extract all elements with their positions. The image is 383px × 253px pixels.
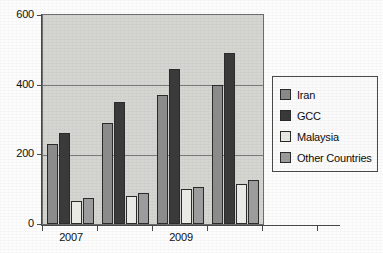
bar-gcc-2 [169, 69, 180, 224]
legend-label-malaysia: Malaysia [297, 131, 339, 143]
x-tick-mark [97, 226, 98, 231]
bar-iran-3 [212, 85, 223, 224]
bar-malaysia-1 [126, 196, 137, 224]
y-axis-line [41, 14, 42, 226]
bar-malaysia-3 [236, 184, 247, 224]
bar-iran-2 [157, 95, 168, 224]
y-tick-mark [37, 15, 41, 16]
x-tick-label: 2009 [161, 231, 201, 243]
y-tick-label: 400 [2, 78, 34, 90]
bar-malaysia-2 [181, 189, 192, 224]
legend-item-other-countries: Other Countries [280, 147, 371, 168]
bar-other-countries-0 [83, 198, 94, 224]
y-tick-label: 0 [2, 217, 34, 229]
bar-series-layer [43, 15, 263, 224]
bar-gcc-3 [224, 53, 235, 224]
legend-label-gcc: GCC [297, 110, 321, 122]
legend-label-other-countries: Other Countries [297, 152, 372, 164]
x-tick-mark [42, 226, 43, 231]
x-tick-mark [152, 226, 153, 231]
x-tick-label: 2007 [51, 231, 91, 243]
legend-swatch-iran [280, 89, 291, 100]
bar-other-countries-1 [138, 193, 149, 224]
legend-item-iran: Iran [280, 84, 371, 105]
legend-swatch-malaysia [280, 131, 291, 142]
legend: Iran GCC Malaysia Other Countries [272, 76, 378, 172]
bar-gcc-1 [114, 102, 125, 224]
legend-item-gcc: GCC [280, 105, 371, 126]
bar-iran-0 [47, 144, 58, 224]
legend-label-iran: Iran [297, 89, 315, 101]
bar-other-countries-3 [248, 180, 259, 224]
x-tick-mark [317, 226, 318, 231]
y-tick-mark [37, 85, 41, 86]
legend-swatch-gcc [280, 110, 291, 121]
bar-gcc-0 [59, 133, 70, 224]
x-tick-mark [262, 226, 263, 231]
bar-other-countries-2 [193, 187, 204, 224]
chart-figure: 0200400600 20072009 Iran GCC Malaysia Ot… [0, 0, 383, 253]
legend-swatch-other-countries [280, 152, 291, 163]
y-tick-label: 200 [2, 147, 34, 159]
x-tick-mark [207, 226, 208, 231]
y-tick-mark [37, 154, 41, 155]
legend-item-malaysia: Malaysia [280, 126, 371, 147]
y-tick-mark [37, 224, 41, 225]
y-tick-label: 600 [2, 8, 34, 20]
bar-iran-1 [102, 123, 113, 224]
bar-malaysia-0 [71, 201, 82, 224]
x-axis-line [42, 225, 340, 226]
